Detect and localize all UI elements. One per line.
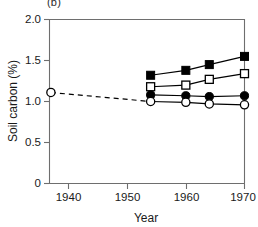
marker-filled-circle-1970 [240, 92, 248, 100]
marker-open-circle-1970 [240, 101, 248, 109]
marker-open-square-1954 [147, 83, 155, 91]
series-line-filled-square [151, 56, 245, 75]
marker-open-circle-1964 [205, 100, 213, 108]
data-series-layer [47, 52, 249, 108]
marker-filled-square-1970 [241, 52, 249, 60]
y-tick-labels: 2.0 1.5 1.0 0.5 0 [25, 13, 41, 189]
series-line-open-circle [151, 102, 245, 105]
series-line-baseline-open-circle [51, 92, 151, 101]
marker-filled-square-1964 [205, 61, 213, 69]
x-tick-label-1970: 1970 [230, 191, 256, 203]
x-tick-label-1940: 1940 [56, 191, 82, 203]
marker-open-square-1970 [241, 70, 249, 78]
soil-carbon-line-chart: 2.0 1.5 1.0 0.5 0 1940 1950 1960 1970 Ye… [0, 0, 258, 227]
x-tick-labels: 1940 1950 1960 1970 [56, 191, 256, 203]
x-tick-label-1950: 1950 [115, 191, 141, 203]
marker-open-circle-1954 [147, 97, 155, 105]
marker-filled-square-1960 [182, 66, 190, 74]
x-tick-label-1960: 1960 [174, 191, 200, 203]
y-tick-label-1-5: 1.5 [25, 54, 41, 66]
marker-open-square-1960 [182, 81, 190, 89]
marker-open-circle-1960 [182, 98, 190, 106]
y-tick-label-1-0: 1.0 [25, 95, 41, 107]
y-tick-marks [44, 20, 50, 184]
figure-panel-b: (b) 2.0 1.5 1.0 0.5 [0, 0, 258, 227]
x-axis-title: Year [134, 211, 158, 225]
series-line-open-square [151, 74, 245, 87]
marker-baseline-open-circle-1937 [47, 88, 55, 96]
marker-filled-square-1954 [147, 71, 155, 79]
series-line-filled-circle [151, 95, 245, 97]
marker-open-square-1964 [205, 75, 213, 83]
y-tick-label-2-0: 2.0 [25, 13, 41, 25]
y-tick-label-0: 0 [35, 177, 41, 189]
y-tick-label-0-5: 0.5 [25, 136, 41, 148]
y-axis-title: Soil carbon (%) [6, 60, 20, 142]
x-tick-marks [69, 184, 245, 190]
